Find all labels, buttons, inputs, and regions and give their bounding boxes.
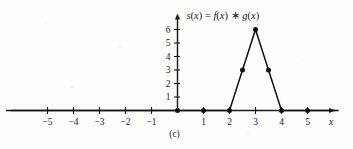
x-tick-label: 4 bbox=[279, 117, 284, 127]
x-tick-label: 2 bbox=[227, 117, 232, 127]
y-tick-label: 6 bbox=[166, 25, 171, 35]
x-tick-label: −1 bbox=[146, 117, 156, 127]
x-tick-label: −2 bbox=[120, 117, 130, 127]
x-tick-label: −4 bbox=[68, 117, 78, 127]
y-tick-label: 5 bbox=[166, 38, 171, 48]
y-tick-label: 1 bbox=[166, 92, 171, 102]
x-axis-label: x bbox=[328, 117, 334, 127]
data-point-marker bbox=[305, 108, 310, 113]
y-tick-label: 3 bbox=[166, 65, 171, 75]
data-point-marker bbox=[253, 27, 258, 32]
x-tick-label: 5 bbox=[305, 117, 310, 127]
y-tick-label: 4 bbox=[166, 52, 171, 62]
convolution-figure: −5−4−3−2−112345123456x(c)s(x) = f(x) ∗ g… bbox=[0, 0, 353, 149]
y-axis-arrow bbox=[175, 13, 180, 19]
data-point-marker bbox=[227, 108, 232, 113]
y-tick-label: 2 bbox=[166, 79, 171, 89]
plot-canvas: −5−4−3−2−112345123456x(c)s(x) = f(x) ∗ g… bbox=[0, 0, 353, 149]
data-point-marker bbox=[240, 68, 245, 73]
x-tick-label: 1 bbox=[201, 117, 206, 127]
data-point-marker bbox=[201, 108, 206, 113]
x-tick-label: 3 bbox=[253, 117, 258, 127]
x-tick-label: −3 bbox=[94, 117, 104, 127]
data-point-marker bbox=[266, 68, 271, 73]
data-point-marker bbox=[279, 108, 284, 113]
figure-caption: (c) bbox=[169, 129, 180, 140]
data-point-marker bbox=[175, 108, 180, 113]
x-tick-label: −5 bbox=[42, 117, 52, 127]
chart-title: s(x) = f(x) ∗ g(x) bbox=[187, 10, 260, 22]
